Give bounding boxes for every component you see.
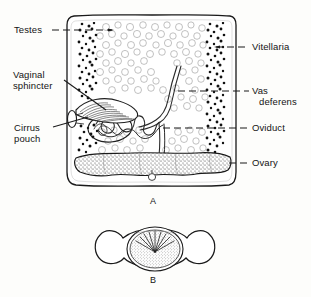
panel-letter-a: A bbox=[143, 196, 163, 206]
label-testes: Testes bbox=[14, 24, 42, 35]
label-vaginal-sphincter-line1: Vaginal bbox=[13, 69, 45, 80]
label-cirrus-pouch-line1: Cirrus bbox=[14, 122, 40, 133]
genital-pore bbox=[68, 111, 77, 128]
label-ovary: Ovary bbox=[252, 157, 278, 168]
anatomical-figure: Testes Vaginal sphincter Cirrus pouch Vi… bbox=[0, 0, 311, 297]
label-vaginal-sphincter-line2: sphincter bbox=[13, 80, 52, 91]
ovary bbox=[75, 153, 231, 176]
label-oviduct: Oviduct bbox=[252, 122, 285, 133]
ovary-outline bbox=[75, 153, 231, 176]
label-vas-deferens-line1: Vas bbox=[252, 85, 268, 96]
label-cirrus-pouch-line2: pouch bbox=[14, 133, 40, 144]
label-vitellaria: Vitellaria bbox=[252, 41, 289, 52]
egg-panel bbox=[95, 227, 215, 271]
ootype bbox=[148, 174, 155, 181]
label-vas-deferens-line2: deferens bbox=[259, 96, 297, 107]
panel-letter-b: B bbox=[143, 275, 163, 285]
